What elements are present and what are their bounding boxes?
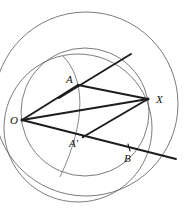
point-A <box>77 84 79 86</box>
segment-A-X <box>78 85 148 99</box>
geometry-canvas: O A A′ X B <box>0 0 186 213</box>
label-A-prime: A′ <box>68 137 79 149</box>
circle-lower-left <box>4 54 152 202</box>
label-O: O <box>10 114 18 126</box>
point-A-prime <box>82 136 84 138</box>
label-B: B <box>124 152 131 164</box>
point-X <box>146 97 149 100</box>
point-O <box>20 118 23 121</box>
label-A: A <box>65 73 73 85</box>
label-X: X <box>155 93 164 105</box>
circle-large-upper <box>0 12 178 196</box>
ray-O-through-B <box>22 120 176 159</box>
geometry-figure: O A A′ X B <box>0 0 186 213</box>
